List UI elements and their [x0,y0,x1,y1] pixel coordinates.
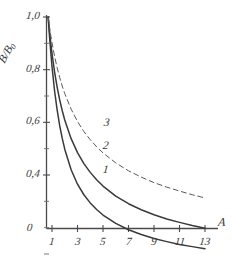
figure-container: B/B0 A 0 1,00,80,60,4135791113123 [0,0,232,255]
curve-1 [48,17,205,249]
axes-group [47,15,219,229]
y-tick-label: 0,6 [5,114,40,126]
y-tick-label: 0,8 [5,62,40,74]
origin-label: 0 [26,221,33,233]
curves-group [48,17,205,249]
plot-svg [0,0,232,255]
x-tick-label: 3 [67,235,88,247]
x-tick-label: 1 [41,235,62,247]
y-tick-label: 0,4 [5,167,40,179]
curve-label-2: 2 [102,139,109,151]
x-tick-label: 5 [92,235,113,247]
x-axis-title: A [217,215,226,230]
y-tick-label: 1,0 [5,9,40,21]
x-tick-label: 13 [194,235,215,247]
x-tick-label: 7 [118,235,139,247]
curve-2 [48,17,205,228]
x-tick-label: 11 [169,235,190,247]
x-tick-label: 9 [143,235,164,247]
